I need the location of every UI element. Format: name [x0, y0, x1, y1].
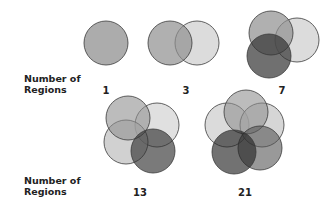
row2-label: Number of Regions: [24, 175, 81, 197]
count-1: 1: [103, 85, 110, 96]
label-line-2: Regions: [24, 84, 81, 95]
label-line-1: Number of: [24, 175, 81, 186]
count-13: 13: [133, 187, 147, 198]
diagram-5-circles: [205, 90, 284, 174]
count-7: 7: [279, 85, 286, 96]
row1-label: Number of Regions: [24, 73, 81, 95]
label-line-1: Number of: [24, 73, 81, 84]
count-3: 3: [183, 85, 190, 96]
diagram-4-circles: [104, 96, 179, 173]
count-21: 21: [238, 187, 252, 198]
label-line-2: Regions: [24, 186, 81, 197]
diagram-1-circle: [84, 21, 128, 65]
diagram-3-circles: [247, 11, 319, 78]
diagram-2-circles: [148, 21, 219, 65]
